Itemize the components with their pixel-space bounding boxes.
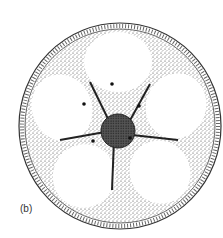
central-placenta [101, 114, 135, 148]
figure-label: (b) [20, 203, 32, 214]
cross-section-diagram [0, 0, 223, 238]
